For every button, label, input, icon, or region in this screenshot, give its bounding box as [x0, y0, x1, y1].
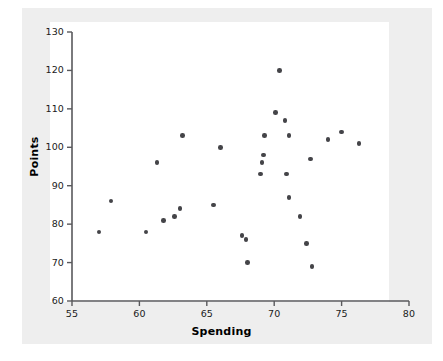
- data-point: [172, 214, 177, 219]
- y-tick-label: 130: [28, 26, 64, 37]
- y-axis-title: Points: [28, 117, 41, 197]
- data-point: [326, 137, 331, 142]
- data-point: [109, 199, 114, 204]
- x-tick-label: 65: [187, 308, 227, 319]
- y-tick-label: 60: [28, 295, 64, 306]
- data-point: [258, 172, 263, 177]
- data-points-layer: [0, 0, 443, 361]
- data-point: [298, 214, 303, 219]
- data-point: [244, 237, 249, 242]
- x-axis-title: Spending: [0, 325, 443, 338]
- data-point: [180, 133, 185, 138]
- x-tick-label: 80: [389, 308, 429, 319]
- data-point: [245, 260, 250, 265]
- x-tick-label: 60: [119, 308, 159, 319]
- data-point: [144, 230, 149, 235]
- data-point: [155, 160, 160, 165]
- data-point: [357, 141, 362, 146]
- data-point: [287, 133, 292, 138]
- data-point: [273, 110, 278, 115]
- data-point: [308, 157, 313, 162]
- data-point: [211, 203, 216, 208]
- y-tick-label: 110: [28, 103, 64, 114]
- data-point: [262, 133, 267, 138]
- data-point: [304, 241, 309, 246]
- data-point: [161, 218, 166, 223]
- data-point: [310, 264, 315, 269]
- y-tick-label: 70: [28, 257, 64, 268]
- y-tick-label: 80: [28, 218, 64, 229]
- data-point: [277, 68, 282, 73]
- x-tick-label: 55: [52, 308, 92, 319]
- y-tick-label: 120: [28, 64, 64, 75]
- chart-page: 55606570758060708090100110120130 Spendin…: [0, 0, 443, 361]
- x-tick-label: 75: [322, 308, 362, 319]
- data-point: [218, 145, 223, 150]
- data-point: [287, 195, 292, 200]
- data-point: [339, 130, 344, 135]
- data-point: [284, 172, 289, 177]
- x-tick-label: 70: [254, 308, 294, 319]
- data-point: [260, 160, 265, 165]
- data-point: [283, 118, 288, 123]
- data-point: [97, 230, 102, 235]
- data-point: [261, 153, 266, 158]
- data-point: [178, 206, 183, 211]
